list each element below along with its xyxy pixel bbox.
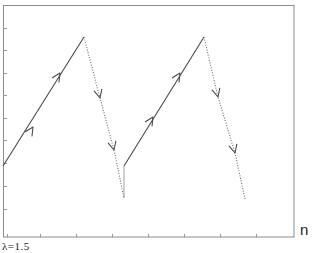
cycle-1-rise-line bbox=[3, 37, 84, 166]
trajectory-series bbox=[3, 37, 245, 199]
parameter-annotation: λ=1.5 bbox=[2, 240, 30, 252]
x-axis-label: n bbox=[300, 221, 308, 238]
cycle-1-fall-line bbox=[84, 37, 124, 198]
y-axis-ticks bbox=[4, 29, 8, 210]
arrowhead-icon bbox=[212, 88, 220, 97]
direction-arrows bbox=[25, 73, 236, 153]
plot-frame bbox=[4, 6, 295, 238]
cycle-2-rise-line bbox=[124, 37, 204, 166]
arrowhead-icon bbox=[108, 141, 116, 150]
cycle-2-fall-line bbox=[204, 37, 245, 199]
phase-trajectory-chart bbox=[0, 0, 313, 253]
